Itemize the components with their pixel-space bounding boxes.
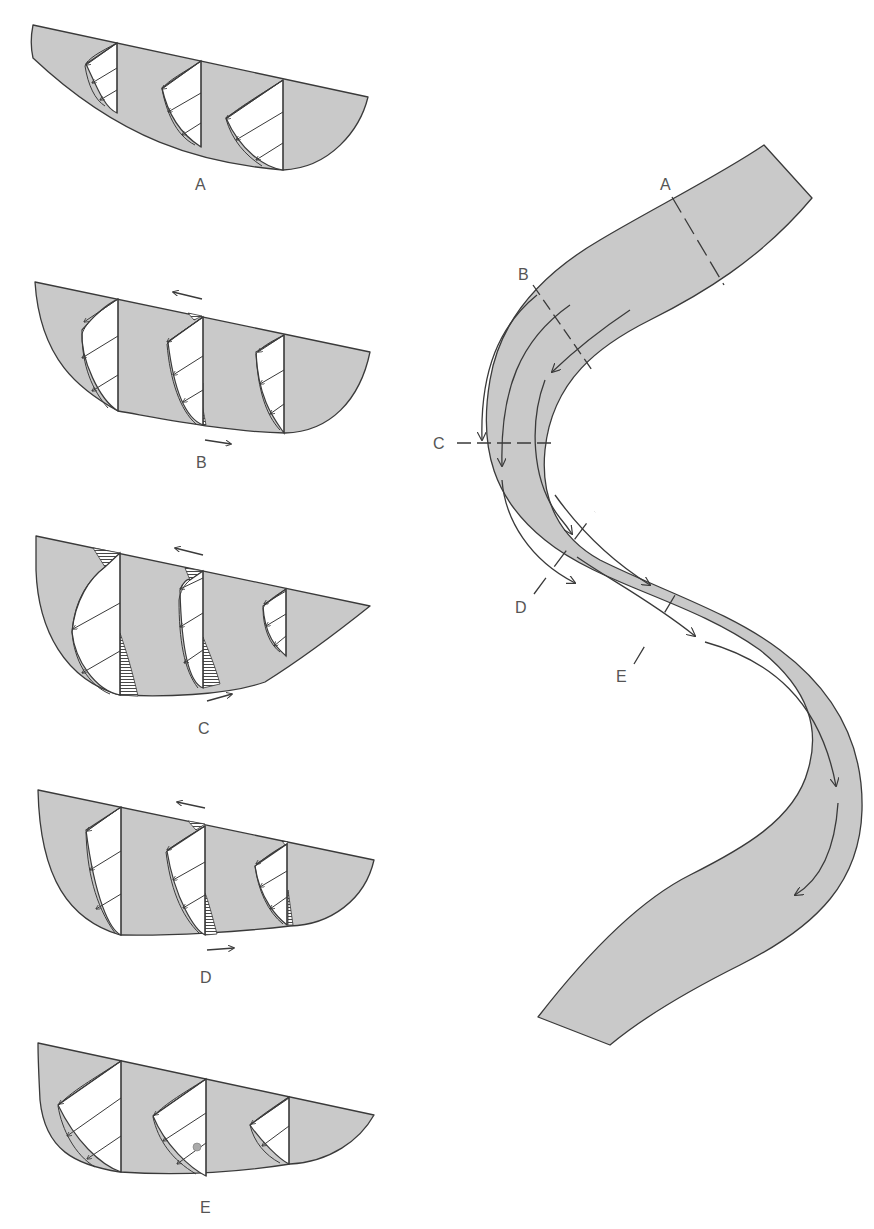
cross-section-c: C: [36, 536, 370, 737]
plan-label-c: C: [433, 435, 445, 452]
plan-label-e: E: [616, 668, 627, 685]
river-meander-diagram: A B: [0, 0, 874, 1229]
section-label-c: C: [198, 720, 210, 737]
cross-section-e: E: [38, 1043, 374, 1216]
surface-flow-arrow-icon: [175, 548, 203, 555]
bed-flow-arrow-icon: [207, 694, 232, 701]
surface-flow-arrow-icon: [177, 802, 205, 808]
section-label-b: B: [196, 454, 207, 471]
surface-flow-arrow-icon: [173, 292, 202, 299]
bed-flow-arrow-icon: [205, 440, 231, 444]
bed-flow-arrow-icon: [207, 948, 234, 950]
plan-label-d: D: [515, 599, 527, 616]
section-label-d: D: [200, 969, 212, 986]
plan-label-b: B: [518, 266, 529, 283]
cross-section-a: A: [31, 25, 368, 193]
section-label-e: E: [200, 1199, 211, 1216]
plan-label-a: A: [660, 176, 671, 193]
cross-section-d: D: [38, 790, 374, 986]
cross-section-b: B: [35, 282, 370, 471]
river-plan-view: A B C D E: [433, 145, 862, 1045]
section-label-a: A: [195, 176, 206, 193]
